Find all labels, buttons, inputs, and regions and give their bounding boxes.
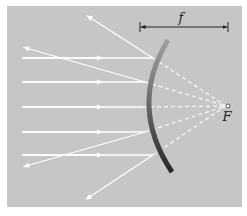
focal-point-label: F <box>221 109 232 124</box>
focal-point-marker <box>226 104 230 108</box>
convex-mirror-diagram: f F <box>0 0 247 216</box>
